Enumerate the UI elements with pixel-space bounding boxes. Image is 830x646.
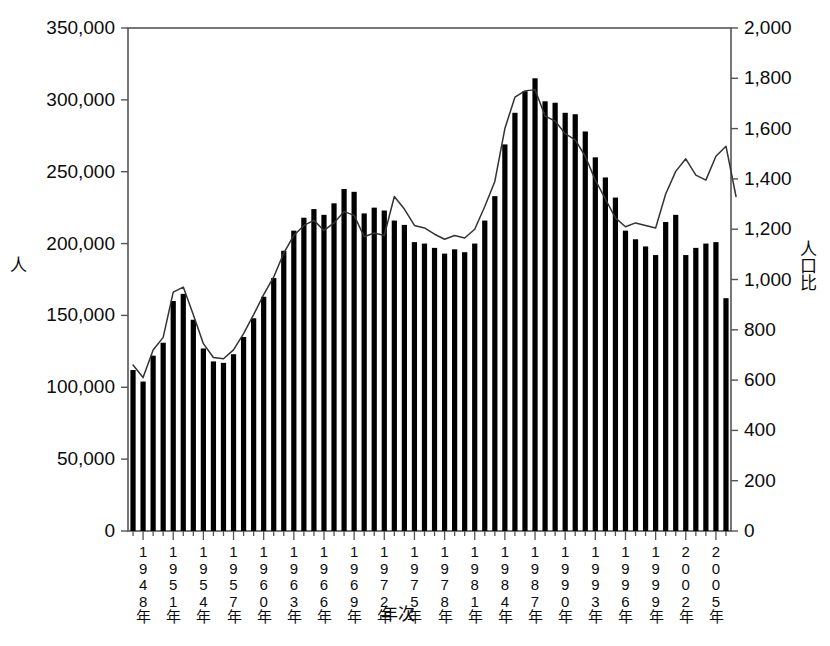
x-axis-tick-label: 1963年: [283, 543, 304, 624]
bar: [603, 177, 608, 531]
bar: [653, 255, 658, 531]
x-axis-tick-label: 1957年: [223, 543, 244, 624]
bar: [482, 221, 487, 531]
bar: [442, 254, 447, 531]
bar: [231, 354, 236, 531]
x-axis-tick-label: 1996年: [615, 543, 636, 624]
bar: [542, 101, 547, 531]
bar: [512, 113, 517, 531]
bar: [683, 255, 688, 531]
bar: [613, 198, 618, 531]
y-axis-right-tick-label: 1,600: [744, 118, 792, 140]
bar: [472, 244, 477, 531]
x-axis-tick-label: 1993年: [585, 543, 606, 624]
x-axis-tick-label: 1969年: [344, 543, 365, 624]
y-axis-left-tick-label: 50,000: [57, 448, 115, 470]
x-axis-tick-label: 1954年: [193, 543, 214, 624]
y-axis-right-tick-label: 800: [744, 319, 776, 341]
y-axis-left-tick-label: 350,000: [46, 17, 115, 39]
bar: [352, 192, 357, 531]
bar: [532, 78, 537, 531]
y-axis-left-tick-label: 150,000: [46, 304, 115, 326]
bar: [171, 301, 176, 531]
bar: [271, 278, 276, 531]
y-axis-right-tick-label: 0: [744, 520, 755, 542]
x-axis-tick-label: 1981年: [464, 543, 485, 624]
x-axis-tick-label: 1951年: [163, 543, 184, 624]
bar: [130, 370, 135, 531]
bar: [362, 213, 367, 531]
bar: [181, 294, 186, 531]
bar: [392, 221, 397, 531]
x-axis-tick-label: 1975年: [404, 543, 425, 624]
bar: [261, 297, 266, 531]
bar: [432, 248, 437, 531]
y-axis-right-tick-label: 1,200: [744, 218, 792, 240]
y-axis-right-tick-label: 400: [744, 419, 776, 441]
bar: [422, 244, 427, 531]
bar: [462, 252, 467, 531]
bar: [563, 113, 568, 531]
x-axis-tick-label: 2002年: [675, 543, 696, 624]
y-axis-right-tick-label: 2,000: [744, 17, 792, 39]
bar: [321, 215, 326, 531]
x-axis-tick-label: 1972年: [374, 543, 395, 624]
bar: [633, 239, 638, 531]
x-axis-tick-label: 2005年: [705, 543, 726, 624]
y-axis-left-tick-label: 0: [104, 520, 115, 542]
x-axis-tick-label: 1978年: [434, 543, 455, 624]
bar: [251, 318, 256, 531]
bar: [573, 114, 578, 531]
bar: [673, 215, 678, 531]
bar: [161, 343, 166, 531]
x-axis-tick-label: 1948年: [133, 543, 154, 624]
bar: [693, 248, 698, 531]
x-axis-tick-label: 1984年: [494, 543, 515, 624]
y-axis-right-tick-label: 1,400: [744, 168, 792, 190]
y-axis-right-tick-label: 1,800: [744, 67, 792, 89]
bar: [553, 103, 558, 531]
bar: [140, 382, 145, 531]
bar: [241, 337, 246, 531]
y-axis-right-tick-label: 1,000: [744, 269, 792, 291]
bar-series: [130, 78, 728, 531]
bar: [412, 242, 417, 531]
x-axis-tick-label: 1960年: [253, 543, 274, 624]
y-axis-left-tick-label: 200,000: [46, 233, 115, 255]
x-axis-tick-label: 1999年: [645, 543, 666, 624]
bar: [331, 203, 336, 531]
bar: [502, 144, 507, 531]
y-axis-left-tick-label: 250,000: [46, 161, 115, 183]
bar: [623, 231, 628, 531]
bar: [301, 218, 306, 531]
x-axis-tick-label: 1966年: [313, 543, 334, 624]
x-axis-tick-label: 1990年: [555, 543, 576, 624]
bar: [372, 208, 377, 531]
bar: [663, 222, 668, 531]
y-axis-left-tick-label: 100,000: [46, 376, 115, 398]
x-axis-tick-label: 1987年: [525, 543, 546, 624]
bar: [382, 211, 387, 531]
bar: [191, 320, 196, 531]
bar: [703, 244, 708, 531]
bar: [151, 356, 156, 531]
bar: [492, 196, 497, 531]
bar: [311, 209, 316, 531]
bar: [281, 251, 286, 531]
y-axis-left-tick-label: 300,000: [46, 89, 115, 111]
bar: [583, 131, 588, 531]
bar: [291, 231, 296, 531]
bar: [341, 189, 346, 531]
bar: [713, 242, 718, 531]
bar: [723, 298, 728, 531]
bar: [211, 361, 216, 531]
plot-frame: [128, 28, 731, 531]
bar: [221, 363, 226, 531]
bar: [201, 348, 206, 531]
y-axis-right-tick-label: 200: [744, 470, 776, 492]
bar: [452, 249, 457, 531]
bar: [593, 157, 598, 531]
bar: [522, 91, 527, 531]
bar: [643, 246, 648, 531]
bar: [402, 225, 407, 531]
